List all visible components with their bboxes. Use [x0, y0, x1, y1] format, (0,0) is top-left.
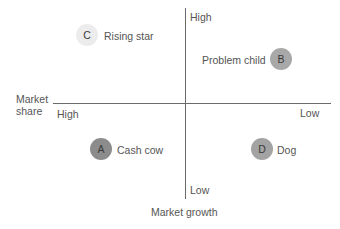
horizontal-axis-line — [53, 103, 331, 104]
quadrant-a-label: Cash cow — [117, 144, 163, 156]
quadrant-c-letter: C — [83, 29, 91, 41]
x-axis-title-line2: share — [16, 105, 42, 117]
quadrant-a-letter: A — [97, 143, 104, 155]
quadrant-b-label: Problem child — [202, 54, 266, 66]
quadrant-d-circle: D — [251, 138, 273, 160]
x-axis-low-label: Low — [300, 107, 319, 119]
quadrant-c-label: Rising star — [104, 30, 154, 42]
y-axis-title: Market growth — [151, 206, 218, 218]
y-axis-low-label: Low — [190, 184, 209, 196]
x-axis-high-label: High — [57, 108, 79, 120]
quadrant-d-label: Dog — [277, 144, 296, 156]
quadrant-a-circle: A — [90, 138, 112, 160]
quadrant-d-letter: D — [258, 143, 266, 155]
x-axis-title-line1: Market — [16, 93, 48, 105]
quadrant-c-circle: C — [76, 24, 98, 46]
y-axis-high-label: High — [190, 11, 212, 23]
quadrant-b-letter: B — [277, 53, 284, 65]
quadrant-b-circle: B — [270, 48, 292, 70]
